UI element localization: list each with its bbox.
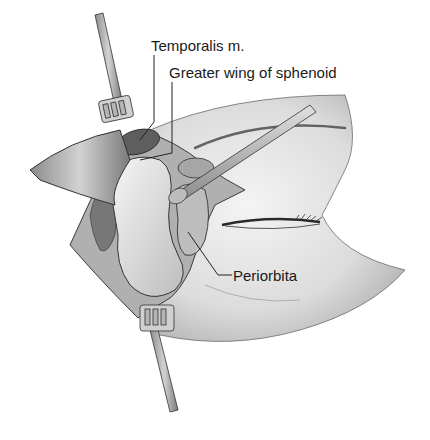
medical-illustration: Temporalis m. Greater wing of sphenoid P… <box>0 0 430 440</box>
label-greater-wing-of-sphenoid: Greater wing of sphenoid <box>169 65 337 80</box>
top-rake-retractor <box>95 13 134 123</box>
bottom-rake-retractor <box>140 305 178 412</box>
temporalis-leader <box>140 55 154 140</box>
label-periorbita: Periorbita <box>233 268 297 283</box>
label-temporalis: Temporalis m. <box>151 38 244 53</box>
